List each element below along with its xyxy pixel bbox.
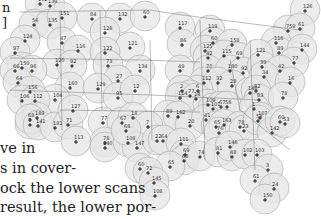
body-line-1: ve in [0,141,35,156]
station-label: 117 [178,20,188,26]
station-label: 67 [120,115,126,121]
station-label: 124 [23,33,33,39]
station-label: 65 [168,159,174,165]
station-label: 145 [152,175,162,181]
station-label: 58 [256,113,262,119]
station-label: 69 [236,50,242,56]
station-label: 1 [252,101,255,107]
station-label: 73 [106,58,112,64]
station-label: 82 [254,83,260,89]
station-label: 78 [281,90,287,96]
station-label: 60 [211,35,217,41]
station-label: 142 [270,125,280,131]
station-label: 64 [16,75,22,81]
station-label: 759 [286,23,296,29]
station-label: 147 [135,140,145,146]
station-label: 48 [230,149,236,155]
station-label: 150 [20,60,30,66]
station-label: 116 [274,35,284,41]
station-label: 14 [194,91,200,97]
station-label: 24 [272,181,278,187]
station-label: 74 [198,149,204,155]
station-label: 189 [35,110,45,116]
station-label: 140 [103,140,113,146]
station-label: 47 [60,35,66,41]
station-label: 108 [153,188,163,194]
station-label: 71 [66,117,72,123]
station-label: 135 [48,17,58,23]
station-label: 119 [208,23,218,29]
station-label: 77 [101,115,107,121]
station-label: 61 [298,21,304,27]
station-label: 134 [138,63,148,69]
station-label: 23 [242,123,248,129]
station-label: 28 [230,78,236,84]
station-label: 27 [116,73,122,79]
station-label: 114 [178,90,188,96]
station-label: 66 [13,63,19,69]
station-label: 6 [196,83,199,89]
station-label: 68 [28,112,34,118]
station-label: 150 [263,192,273,198]
station-label: 86 [180,37,186,43]
station-label: 41 [204,112,210,118]
station-label: 127 [71,103,81,109]
body-line-4: result, the lower por- [0,200,156,215]
station-label: 42 [278,63,284,69]
station-label: 32 [216,75,222,81]
station-label: 34 [262,69,268,75]
station-label: 92 [70,58,76,64]
station-label: 39 [260,59,266,65]
station-label: 121 [256,47,266,53]
body-line-2: s in cover- [0,161,76,176]
station-label: 89 [166,108,172,114]
station-label: 158 [230,37,240,43]
station-label: 132 [118,11,128,17]
station-label: 141 [36,118,46,124]
station-label: 116 [76,43,86,49]
station-label: 112 [202,75,212,81]
station-label: 115 [222,48,232,54]
station-label: 60 [138,161,144,167]
station-label: 18 [131,110,137,116]
station-label: 68 [124,123,130,129]
station-label: 104 [53,92,63,98]
top-fragment-1: n [2,1,10,14]
station-label: 122 [103,45,113,51]
station-label: 84 [90,11,96,17]
station-label: 95 [116,90,122,96]
station-label: 58 [225,99,231,105]
station-label: 64 [161,133,167,139]
station-label: 102 [243,147,253,153]
station-label: 126 [303,3,313,9]
station-label: 144 [300,42,310,48]
top-fragment-2: ] [2,16,7,29]
station-label: 162 [176,109,186,115]
body-line-3: ock the lower scans [0,181,146,196]
station-label: 120 [55,57,65,63]
station-label: 96 [30,63,36,69]
station-label: 121 [128,40,138,46]
station-label: 106 [20,93,30,99]
station-label: 76 [217,125,223,131]
station-label: 111 [179,136,189,142]
station-label: 20 [188,118,194,124]
station-label: 181 [53,120,63,126]
station-label: 128 [103,25,113,31]
station-label: 16 [288,75,294,81]
station-label: 129 [96,81,106,87]
station-label: 156 [28,84,38,90]
station-label: 102 [38,0,48,2]
station-label: 103 [255,147,265,153]
station-label: 81 [216,145,222,151]
station-label: 151 [60,10,70,16]
station-label: 163 [222,117,232,123]
station-label: 125 [203,43,213,49]
station-label: 3 [266,162,269,168]
station-label: 139 [48,0,58,4]
station-label: 61 [253,173,259,179]
station-label: 77 [292,55,298,61]
station-label: 49 [178,63,184,69]
station-label: 7 [146,119,149,125]
station-label: 70 [206,63,212,69]
